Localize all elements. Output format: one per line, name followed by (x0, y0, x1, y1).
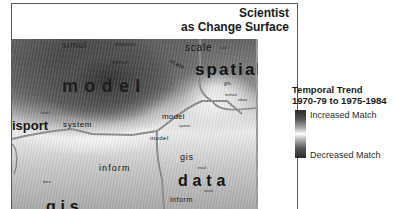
word-travel: travel (41, 112, 50, 116)
word-inform-bottom: inform (170, 196, 193, 203)
title-line-1: Scientist (181, 6, 289, 20)
word-inform-left: inform (99, 164, 131, 173)
legend-title-line-2: 1970-79 to 1975-1984 (292, 95, 392, 106)
word-model-big: model (62, 77, 147, 95)
change-surface-map: simul process scale scale simul scale sp… (12, 39, 258, 209)
word-model-center: model (162, 113, 185, 121)
word-data: data (178, 173, 230, 189)
word-decis: decis (43, 181, 51, 185)
word-system: system (63, 121, 92, 129)
word-simul-top: simul (62, 41, 87, 50)
word-urban: urban (238, 99, 247, 103)
word-scale-top: scale (185, 43, 212, 53)
word-gis-mid: gis (180, 153, 194, 162)
word-gis-small-right: gis (224, 82, 231, 87)
legend-increased-label: Increased Match (310, 110, 377, 120)
word-system-small: system (179, 125, 190, 129)
word-model-mid: model (150, 135, 169, 141)
legend-title-line-1: Temporal Trend (292, 84, 392, 95)
word-scale-small: scale (219, 47, 227, 51)
legend-decreased-label: Decreased Match (310, 150, 381, 160)
legend: Temporal Trend 1970-79 to 1975-1984 Incr… (292, 84, 392, 106)
word-simul-mid: simul (112, 59, 128, 65)
word-spatial: spatial (195, 61, 258, 78)
word-process: process (115, 42, 135, 47)
figure-title: Scientist as Change Surface (181, 6, 289, 34)
word-transport: isport (12, 119, 48, 132)
legend-gradient-bar (295, 110, 306, 158)
word-method: method (225, 94, 237, 98)
word-visual: visual (197, 167, 206, 171)
title-line-2: as Change Surface (181, 20, 289, 34)
word-gis-bottom: gis (46, 199, 84, 209)
word-social: social (204, 190, 213, 194)
